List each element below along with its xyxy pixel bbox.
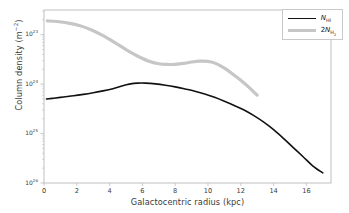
legend-label-nhi: NHI [321,14,331,22]
legend-swatch-nhi [288,18,316,19]
x-tick-label: 16 [298,187,314,195]
tick-marks [41,11,307,186]
legend: NHI 2NH2 [282,9,343,40]
y-tick-label: 1026 [16,179,38,186]
legend-label-2nh2: 2NH2 [321,26,336,35]
x-tick-label: 6 [134,187,150,195]
y-tick-label: 1024 [16,80,38,87]
x-axis-label: Galactocentric radius (kpc) [44,197,331,207]
x-tick-label: 14 [266,187,282,195]
legend-swatch-2nh2 [288,29,316,32]
figure-canvas: Column density (m−2) Galactocentric radi… [0,0,349,213]
x-tick-label: 10 [200,187,216,195]
x-tick-label: 0 [36,187,52,195]
legend-item-2nh2[interactable]: 2NH2 [288,26,336,35]
y-tick-label: 1025 [16,129,38,136]
y-tick-label: 1023 [16,30,38,37]
x-tick-label: 4 [102,187,118,195]
y-axis-label: Column density (m−2) [14,0,24,135]
x-tick-label: 2 [69,187,85,195]
x-tick-label: 12 [233,187,249,195]
legend-item-nhi[interactable]: NHI [288,14,336,22]
x-tick-label: 8 [167,187,183,195]
series-line-nhi [46,83,322,173]
